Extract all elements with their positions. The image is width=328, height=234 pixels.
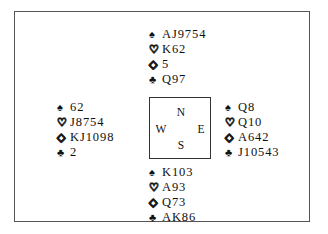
compass-box: N W E S — [149, 97, 211, 159]
east-clubs-cards: J10543 — [238, 145, 280, 160]
north-hearts-cards: K62 — [162, 42, 186, 57]
spade-icon: ♠ — [57, 100, 70, 115]
heart-icon: ♡ — [149, 180, 162, 195]
west-spades-cards: 62 — [70, 100, 84, 115]
east-diamond-row: ◇ A642 — [225, 130, 280, 145]
west-hearts-cards: J8754 — [70, 115, 104, 130]
south-clubs-cards: AK86 — [162, 210, 196, 225]
north-clubs-cards: Q97 — [162, 72, 186, 87]
west-heart-row: ♡ J8754 — [57, 115, 114, 130]
south-spades-cards: K103 — [162, 165, 193, 180]
hand-north: ♠ AJ9754 ♡ K62 ◇ 5 ♣ Q97 — [149, 27, 206, 87]
north-spade-row: ♠ AJ9754 — [149, 27, 206, 42]
west-spade-row: ♠ 62 — [57, 100, 114, 115]
hand-east: ♠ Q8 ♡ Q10 ◇ A642 ♣ J10543 — [225, 100, 280, 160]
compass-north-label: N — [174, 106, 188, 118]
north-spades-cards: AJ9754 — [162, 27, 206, 42]
diamond-icon: ◇ — [149, 195, 162, 210]
north-diamond-row: ◇ 5 — [149, 57, 206, 72]
spade-icon: ♠ — [149, 27, 162, 42]
west-club-row: ♣ 2 — [57, 145, 114, 160]
south-diamond-row: ◇ Q73 — [149, 195, 196, 210]
bridge-hand-diagram-screenshot: ♠ AJ9754 ♡ K62 ◇ 5 ♣ Q97 ♠ 62 ♡ — [0, 0, 328, 234]
compass-south-label: S — [174, 139, 188, 151]
north-club-row: ♣ Q97 — [149, 72, 206, 87]
west-clubs-cards: 2 — [70, 145, 77, 160]
diamond-icon: ◇ — [149, 57, 162, 72]
diamond-icon: ◇ — [225, 130, 238, 145]
diamond-icon: ◇ — [57, 130, 70, 145]
spade-icon: ♠ — [149, 165, 162, 180]
east-heart-row: ♡ Q10 — [225, 115, 280, 130]
club-icon: ♣ — [225, 145, 238, 160]
diagram-frame: ♠ AJ9754 ♡ K62 ◇ 5 ♣ Q97 ♠ 62 ♡ — [14, 11, 310, 222]
south-hearts-cards: A93 — [162, 180, 186, 195]
compass-west-label: W — [154, 123, 168, 135]
north-diamonds-cards: 5 — [162, 57, 169, 72]
east-club-row: ♣ J10543 — [225, 145, 280, 160]
west-diamond-row: ◇ KJ1098 — [57, 130, 114, 145]
hand-south: ♠ K103 ♡ A93 ◇ Q73 ♣ AK86 — [149, 165, 196, 225]
east-spades-cards: Q8 — [238, 100, 255, 115]
west-diamonds-cards: KJ1098 — [70, 130, 114, 145]
north-heart-row: ♡ K62 — [149, 42, 206, 57]
south-diamonds-cards: Q73 — [162, 195, 186, 210]
hand-west: ♠ 62 ♡ J8754 ◇ KJ1098 ♣ 2 — [57, 100, 114, 160]
south-heart-row: ♡ A93 — [149, 180, 196, 195]
club-icon: ♣ — [57, 145, 70, 160]
compass-east-label: E — [194, 123, 208, 135]
south-spade-row: ♠ K103 — [149, 165, 196, 180]
east-diamonds-cards: A642 — [238, 130, 269, 145]
east-hearts-cards: Q10 — [238, 115, 262, 130]
club-icon: ♣ — [149, 72, 162, 87]
south-club-row: ♣ AK86 — [149, 210, 196, 225]
east-spade-row: ♠ Q8 — [225, 100, 280, 115]
spade-icon: ♠ — [225, 100, 238, 115]
club-icon: ♣ — [149, 210, 162, 225]
heart-icon: ♡ — [149, 42, 162, 57]
heart-icon: ♡ — [225, 115, 238, 130]
heart-icon: ♡ — [57, 115, 70, 130]
